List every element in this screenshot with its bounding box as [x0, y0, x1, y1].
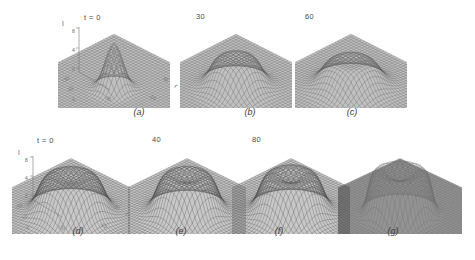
surface-plot-g: [338, 142, 462, 234]
surface-plot-b: [180, 18, 292, 108]
panel-label-d: (d): [63, 226, 93, 236]
figure-row-2: t = 0 40 80 I 8 4 0 -30 -10 0 -30 -10 r …: [0, 128, 475, 260]
surface-plot-c: [295, 18, 407, 108]
panel-label-f: (f): [264, 226, 294, 236]
surface-plot-d: [12, 142, 130, 234]
panel-label-e: (e): [166, 226, 196, 236]
panel-label-a: (a): [124, 107, 154, 117]
surface-plot-e: [128, 142, 246, 234]
surface-plot-f: [232, 142, 350, 234]
panel-label-g: (g): [378, 226, 408, 236]
panel-label-b: (b): [235, 107, 265, 117]
figure-surface-plots: t = 0 30 60 I 8 4 0 -30 -10 0 -30 -10 r …: [0, 0, 475, 260]
surface-plot-a: [58, 18, 170, 108]
panel-label-c: (c): [337, 107, 367, 117]
figure-row-1: t = 0 30 60 I 8 4 0 -30 -10 0 -30 -10 r …: [0, 0, 475, 130]
